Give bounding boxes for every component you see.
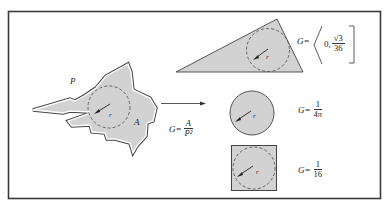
square-shape [232,146,277,191]
square-radius-label: r [256,168,259,176]
figure-canvas [0,0,389,209]
circle-formula: G= 1 4π [298,100,324,119]
formula-denominator: P² [183,129,195,138]
square-formula: G= 1 16 [298,160,324,179]
circle-radius-label: r [253,112,256,120]
formula-denominator: 36 [332,44,345,53]
geometric-factor-figure: P A r r r r G= A P² G= 0, √3 36 G= 1 4π … [0,0,389,209]
triangle-interval: 0, √3 36 [324,34,345,53]
formula-denominator: 4π [312,110,325,119]
area-label: A [134,117,140,127]
perimeter-label: P [70,76,76,86]
formula-lhs: G= [297,36,310,46]
general-formula: G= A P² [169,119,194,138]
triangle-formula: G= [297,36,310,46]
formula-lhs: G= [169,124,182,134]
circle-shape [230,91,274,135]
triangle-radius-label: r [266,53,269,61]
formula-denominator: 16 [312,170,325,179]
interval-lower: 0, [324,39,331,49]
formula-lhs: G= [298,105,311,115]
formula-lhs: G= [298,165,311,175]
polygon-radius-label: r [109,111,112,119]
